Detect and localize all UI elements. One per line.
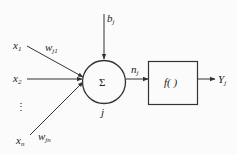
sigma-symbol: Σ: [99, 77, 105, 88]
input-n-label: xn: [16, 135, 24, 148]
diagram-lines: [0, 0, 237, 154]
neuron-diagram: bj x1 x2 ⋮ xn wj1 wjn Σ j nj f( ) Yj: [0, 0, 237, 154]
output-label: Yj: [218, 74, 226, 87]
input-1-label: x1: [13, 40, 21, 53]
activation-label: f( ): [164, 77, 177, 88]
bias-label: bj: [107, 13, 114, 26]
weight-j1-label: wj1: [45, 42, 58, 55]
input-2-label: x2: [13, 73, 21, 86]
input-n-arrow: [30, 82, 83, 135]
input-ellipsis: ⋮: [16, 102, 26, 112]
net-input-label: nj: [131, 64, 138, 77]
weight-jn-label: wjn: [38, 131, 51, 144]
node-j-label: j: [101, 107, 104, 118]
